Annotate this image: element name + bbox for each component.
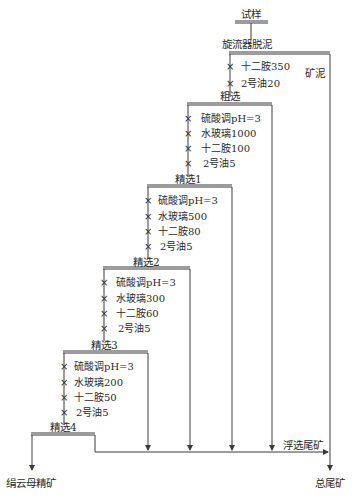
reagent-label: 2号油5 (118, 323, 151, 335)
reagent-add-icon: × (60, 378, 68, 388)
flotation-tailings-label: 浮选尾矿 (283, 439, 323, 451)
reagent-add-icon: × (144, 212, 152, 222)
reagent-label: 2号油5 (203, 158, 236, 170)
reagent-add-icon: × (184, 129, 192, 139)
reagent-add-icon: × (60, 408, 68, 418)
reagent-label: 水玻璃300 (116, 293, 165, 305)
slime-label: 矿泥 (305, 67, 325, 79)
reagent-label: 水玻璃500 (158, 211, 207, 223)
reagent-add-icon: × (226, 79, 234, 89)
reagent-add-icon: × (184, 144, 192, 154)
reagent-label: 十二胺350 (241, 61, 290, 73)
reagent-label: 十二胺60 (116, 308, 159, 320)
reagent-label: 2号油5 (160, 241, 193, 253)
reagent-add-icon: × (144, 196, 152, 206)
reagent-add-icon: × (60, 393, 68, 403)
reagent-add-icon: × (100, 324, 108, 334)
reagent-label: 十二胺50 (74, 392, 117, 404)
reagent-add-icon: × (184, 114, 192, 124)
reagent-label: 2号油5 (76, 407, 109, 419)
reagent-add-icon: × (100, 278, 108, 288)
feed-label: 试样 (241, 8, 261, 20)
stage-desliming-label: 旋流器脱泥 (222, 38, 272, 50)
concentrate-label: 绢云母精矿 (6, 477, 56, 489)
reagent-label: 硫酸调pH=3 (158, 195, 218, 207)
stage-cleaner4-label: 精选4 (50, 421, 77, 433)
reagent-label: 水玻璃1000 (201, 128, 256, 140)
reagent-label: 2号油20 (241, 78, 280, 90)
reagent-add-icon: × (100, 309, 108, 319)
stage-roughing-label: 粗选 (220, 90, 240, 102)
reagent-add-icon: × (226, 62, 234, 72)
reagent-label: 硫酸调pH=3 (116, 277, 176, 289)
reagent-label: 硫酸调pH=3 (74, 361, 134, 373)
reagent-add-icon: × (60, 362, 68, 372)
stage-cleaner2-label: 精选2 (133, 256, 160, 268)
reagent-add-icon: × (144, 242, 152, 252)
reagent-add-icon: × (100, 294, 108, 304)
reagent-label: 水玻璃200 (74, 377, 123, 389)
stage-cleaner1-label: 精选1 (175, 173, 202, 185)
reagent-label: 十二胺80 (158, 226, 201, 238)
reagent-label: 硫酸调pH=3 (201, 113, 261, 125)
reagent-label: 十二胺100 (201, 143, 250, 155)
reagent-add-icon: × (184, 159, 192, 169)
stage-cleaner3-label: 精选3 (91, 339, 118, 351)
total-tailings-label: 总尾矿 (315, 477, 345, 489)
reagent-add-icon: × (144, 227, 152, 237)
